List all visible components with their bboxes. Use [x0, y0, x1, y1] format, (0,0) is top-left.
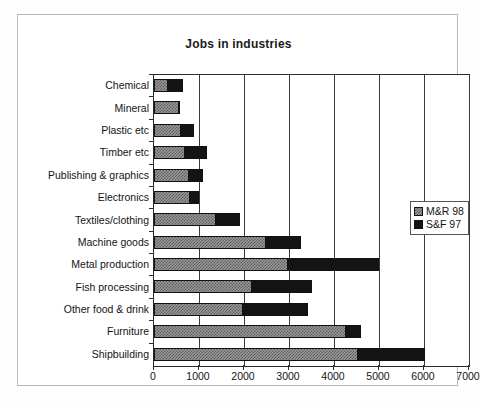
x-axis-tick	[198, 365, 199, 370]
x-axis-tick	[333, 365, 334, 370]
chart-frame: Jobs in industries ChemicalMineralPlasti…	[17, 14, 458, 386]
bar-segment-sf97	[180, 124, 195, 137]
stacked-bar	[154, 124, 194, 137]
x-axis-label: 4000	[321, 370, 344, 382]
bar-segment-mr98	[154, 303, 242, 316]
x-axis-label: 0	[150, 370, 156, 382]
stacked-bar	[154, 169, 203, 182]
stacked-bar	[154, 191, 199, 204]
gridline-7000	[469, 75, 470, 366]
x-axis-tick	[378, 365, 379, 370]
y-axis-label: Furniture	[27, 326, 149, 337]
x-axis-tick	[153, 365, 154, 370]
y-axis-labels: ChemicalMineralPlastic etcTimber etcPubl…	[23, 74, 149, 365]
y-axis-label: Metal production	[27, 259, 149, 270]
bar-segment-sf97	[184, 146, 207, 159]
bar-row	[154, 276, 469, 298]
y-axis-label: Mineral	[27, 103, 149, 114]
bar-segment-mr98	[154, 258, 287, 271]
stacked-bar	[154, 213, 240, 226]
bar-segment-sf97	[215, 213, 240, 226]
x-axis-tick	[468, 365, 469, 370]
checkered-gray-swatch	[414, 207, 423, 216]
bar-segment-mr98	[154, 79, 167, 92]
legend-item[interactable]: S&F 97	[414, 218, 464, 231]
legend-label: S&F 97	[426, 219, 461, 230]
bar-segment-sf97	[357, 348, 426, 361]
solid-black-swatch	[414, 220, 423, 229]
y-axis-label: Chemical	[27, 80, 149, 91]
x-axis-tick	[243, 365, 244, 370]
x-axis-labels: 01000200030004000500060007000	[153, 370, 468, 386]
x-axis-label: 3000	[276, 370, 299, 382]
y-axis-label: Fish processing	[27, 282, 149, 293]
bar-segment-sf97	[167, 79, 183, 92]
bar-segment-mr98	[154, 124, 180, 137]
bar-segment-mr98	[154, 191, 189, 204]
bar-segment-mr98	[154, 146, 184, 159]
stacked-bar	[154, 348, 425, 361]
x-axis-label: 1000	[186, 370, 209, 382]
bar-segment-sf97	[345, 325, 361, 338]
x-axis-label: 5000	[366, 370, 389, 382]
bar-row	[154, 97, 469, 119]
chart-legend: M&R 98S&F 97	[410, 201, 469, 235]
x-axis-tick	[423, 365, 424, 370]
y-axis-label: Textiles/clothing	[27, 215, 149, 226]
bar-row	[154, 142, 469, 164]
x-axis-label: 6000	[411, 370, 434, 382]
bar-row	[154, 321, 469, 343]
stacked-bar	[154, 101, 180, 114]
bar-row	[154, 299, 469, 321]
y-axis-label: Publishing & graphics	[27, 170, 149, 181]
bar-segment-mr98	[154, 101, 178, 114]
bar-segment-mr98	[154, 213, 215, 226]
bar-segment-sf97	[265, 236, 301, 249]
stacked-bar	[154, 79, 183, 92]
bar-row	[154, 165, 469, 187]
bar-segment-mr98	[154, 348, 357, 361]
y-axis-label: Machine goods	[27, 237, 149, 248]
chart-title: Jobs in industries	[18, 37, 459, 51]
legend-label: M&R 98	[426, 206, 464, 217]
bar-segment-mr98	[154, 280, 251, 293]
bar-row	[154, 120, 469, 142]
bar-segment-sf97	[242, 303, 308, 316]
bar-row	[154, 232, 469, 254]
y-axis-label: Timber etc	[27, 147, 149, 158]
y-axis-label: Electronics	[27, 192, 149, 203]
bar-segment-sf97	[178, 101, 180, 114]
y-axis-label: Other food & drink	[27, 304, 149, 315]
x-axis-label: 2000	[231, 370, 254, 382]
bar-segment-sf97	[189, 191, 199, 204]
stacked-bar	[154, 258, 379, 271]
stacked-bar	[154, 236, 301, 249]
legend-item[interactable]: M&R 98	[414, 205, 464, 218]
bar-segment-mr98	[154, 325, 345, 338]
bar-segment-sf97	[188, 169, 203, 182]
bar-segment-sf97	[251, 280, 312, 293]
bar-row	[154, 344, 469, 366]
bar-row	[154, 75, 469, 97]
stacked-bar	[154, 325, 361, 338]
stacked-bar	[154, 146, 207, 159]
stacked-bar	[154, 280, 312, 293]
bar-segment-mr98	[154, 169, 188, 182]
y-axis-label: Shipbuilding	[27, 349, 149, 360]
bar-segment-mr98	[154, 236, 265, 249]
bar-row	[154, 254, 469, 276]
x-axis-tick	[288, 365, 289, 370]
bar-segment-sf97	[287, 258, 379, 271]
x-axis-label: 7000	[456, 370, 479, 382]
y-axis-label: Plastic etc	[27, 125, 149, 136]
stacked-bar	[154, 303, 308, 316]
